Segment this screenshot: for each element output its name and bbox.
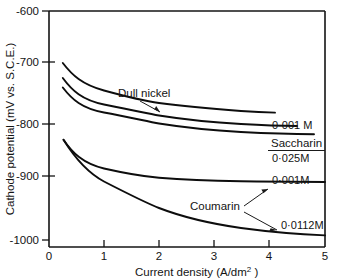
- annotation-saccharin-0-001M: 0·001 M: [272, 119, 312, 131]
- curve-saccharin-0-001M: [63, 78, 297, 126]
- xtick-label-5: 5: [322, 250, 328, 262]
- xtick-label-4: 4: [266, 250, 273, 262]
- annotation-coumarin-0-001M: 0·001M: [272, 174, 309, 186]
- coumarin-lower-leader: [244, 212, 277, 230]
- cathode-potential-chart: -600 -700 -800 -900 -1000 0 1 2 3 4 5 Ca…: [0, 0, 342, 280]
- xtick-label-1: 1: [101, 250, 107, 262]
- ytick-label-1000: -1000: [10, 234, 39, 246]
- x-axis-title: Current density (A/dm2 ): [135, 265, 259, 278]
- x-axis-title-end: ): [251, 266, 258, 278]
- annotation-coumarin: Coumarin: [190, 200, 240, 212]
- ytick-label-900: -900: [16, 170, 39, 182]
- ytick-label-800: -800: [16, 118, 39, 130]
- xtick-label-3: 3: [211, 250, 217, 262]
- xtick-label-0: 0: [46, 250, 52, 262]
- xtick-label-2: 2: [156, 250, 162, 262]
- annotation-saccharin: Saccharin: [271, 137, 322, 149]
- annotation-dull-nickel: Dull nickel: [118, 87, 170, 99]
- annotation-saccharin-0-025M: 0·025M: [272, 152, 309, 164]
- ytick-label-700: -700: [16, 56, 39, 68]
- dull-nickel-arrowhead: [154, 106, 160, 112]
- ytick-label-600: -600: [16, 5, 39, 17]
- annotation-coumarin-0-0112M: 0·0112M: [281, 219, 324, 231]
- y-axis-title: Cathode potential (mV vs. S.C.E.): [4, 43, 16, 216]
- x-axis-title-main: Current density (A/dm: [135, 266, 247, 278]
- figure-container: -600 -700 -800 -900 -1000 0 1 2 3 4 5 Ca…: [0, 0, 342, 280]
